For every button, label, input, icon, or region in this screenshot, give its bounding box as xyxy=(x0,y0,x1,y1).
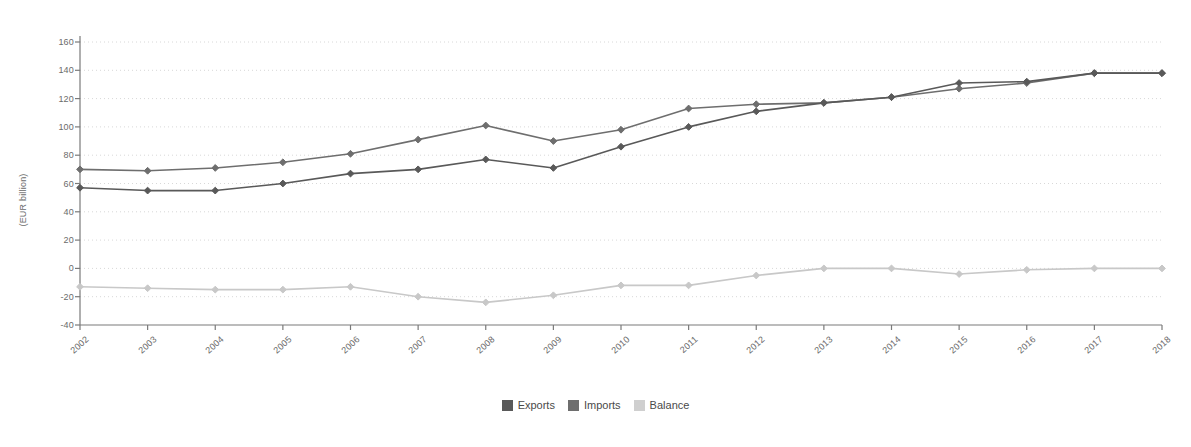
legend-swatch-icon xyxy=(634,400,645,411)
legend-item-balance[interactable]: Balance xyxy=(634,400,690,411)
legend-swatch-icon xyxy=(568,400,579,411)
series-imports xyxy=(77,70,1166,174)
chart-legend: ExportsImportsBalance xyxy=(0,400,1191,411)
series-balance xyxy=(77,265,1166,306)
legend-item-exports[interactable]: Exports xyxy=(502,400,555,411)
line-chart: (EUR billion) -40-2002040608010012014016… xyxy=(0,0,1191,447)
legend-label: Balance xyxy=(650,400,690,411)
legend-swatch-icon xyxy=(502,400,513,411)
legend-label: Exports xyxy=(518,400,555,411)
legend-item-imports[interactable]: Imports xyxy=(568,400,621,411)
legend-label: Imports xyxy=(584,400,621,411)
plot-area xyxy=(0,0,1191,447)
